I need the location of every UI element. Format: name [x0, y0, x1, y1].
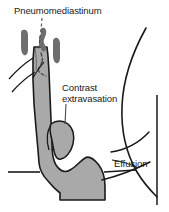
air-streak-left	[21, 30, 28, 56]
illustration-canvas	[0, 0, 169, 212]
leader-line-contrast	[65, 104, 66, 124]
esophagus-shape	[33, 47, 105, 200]
diaphragm-line-right	[104, 170, 136, 172]
effusion-meniscus-curve	[111, 132, 149, 152]
clavicle-line-lower	[12, 72, 35, 92]
label-effusion: Effusion	[114, 158, 147, 169]
contrast-extravasation-blob	[50, 121, 74, 159]
label-contrast-extravasation: Contrast extravasation	[62, 82, 117, 104]
label-contrast-line2: extravasation	[62, 93, 117, 104]
medical-illustration-figure: Pneumomediastinum Contrast extravasation…	[0, 0, 169, 212]
label-pneumomediastinum: Pneumomediastinum	[14, 5, 102, 16]
air-streak-right	[53, 38, 60, 63]
label-contrast-line1: Contrast	[62, 82, 97, 93]
